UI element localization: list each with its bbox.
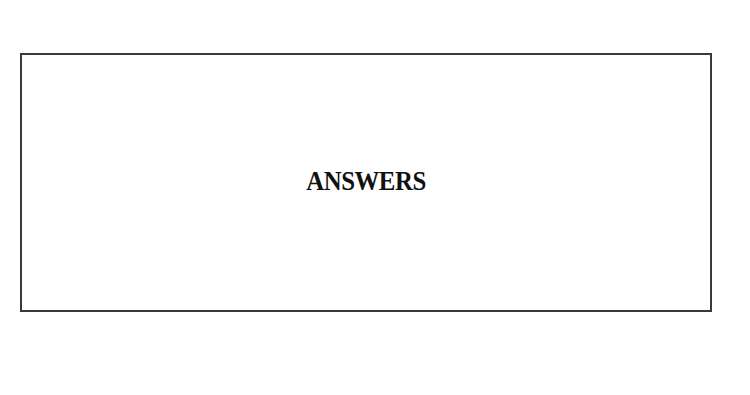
answers-heading: ANSWERS [50,168,683,195]
answers-box: ANSWERS [20,53,712,312]
